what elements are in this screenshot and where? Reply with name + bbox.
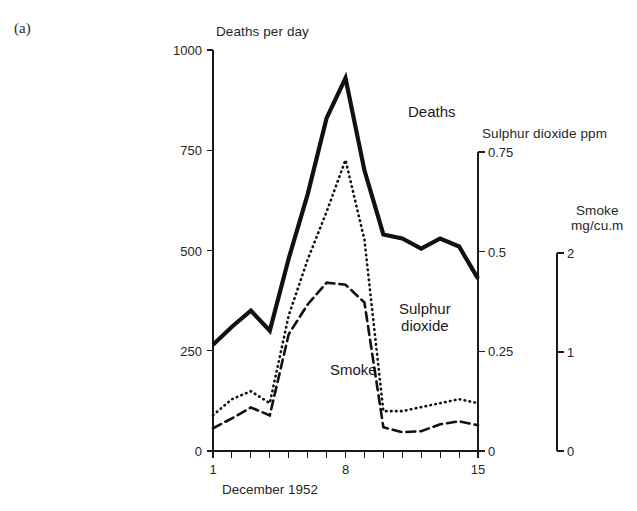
series-line-sulphur-dioxide (213, 160, 478, 415)
series-line-smoke (213, 283, 478, 432)
figure-chart: Deaths per day Sulphur dioxide ppm Smoke… (0, 0, 637, 511)
series-layer (213, 78, 478, 432)
series-line-deaths (213, 78, 478, 345)
plot-area (0, 0, 637, 511)
